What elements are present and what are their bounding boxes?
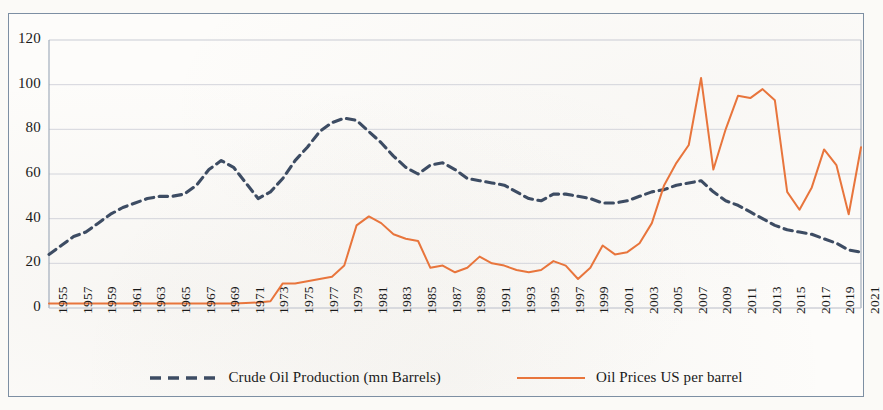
x-axis-tick-label: 1985 <box>424 286 440 314</box>
x-axis-tick-label: 1987 <box>449 286 465 314</box>
x-axis-tick-label: 1977 <box>326 286 342 314</box>
x-axis-tick-label: 1995 <box>547 286 563 314</box>
x-axis-tick-label: 2015 <box>793 286 809 314</box>
y-axis-tick-label: 120 <box>7 30 41 47</box>
x-axis-tick-label: 2007 <box>695 286 711 314</box>
x-axis-tick-label: 2021 <box>867 286 883 314</box>
y-axis-tick-label: 40 <box>7 209 41 226</box>
chart-plot-area <box>9 14 865 398</box>
legend-label: Oil Prices US per barrel <box>596 369 743 386</box>
x-axis-tick-label: 1971 <box>252 286 268 314</box>
y-axis-tick-label: 100 <box>7 75 41 92</box>
x-axis-tick-label: 1991 <box>498 286 514 314</box>
x-axis-tick-label: 1983 <box>399 286 415 314</box>
x-axis-tick-label: 1997 <box>572 286 588 314</box>
x-axis-tick-label: 1975 <box>301 286 317 314</box>
x-axis-tick-label: 1999 <box>596 286 612 314</box>
x-axis-tick-label: 1993 <box>523 286 539 314</box>
x-axis-tick-label: 1955 <box>55 286 71 314</box>
x-axis-tick-label: 2019 <box>842 286 858 314</box>
x-axis-tick-label: 1957 <box>80 286 96 314</box>
series-line-oil-prices-us-per-barrel <box>49 78 861 304</box>
series-line-crude-oil-production-mn-barrels <box>49 118 861 254</box>
y-axis-tick-label: 0 <box>7 298 41 315</box>
solid-line-swatch <box>515 371 587 385</box>
chart-figure: 0204060801001201955195719591961196319651… <box>8 13 864 397</box>
x-axis-tick-label: 2005 <box>670 286 686 314</box>
legend-label: Crude Oil Production (mn Barrels) <box>229 369 441 386</box>
x-axis-tick-label: 1969 <box>227 286 243 314</box>
x-axis-tick-label: 2013 <box>769 286 785 314</box>
x-axis-tick-label: 1959 <box>104 286 120 314</box>
y-axis-tick-label: 80 <box>7 119 41 136</box>
x-axis-tick-label: 1979 <box>350 286 366 314</box>
x-axis-tick-label: 2017 <box>818 286 834 314</box>
x-axis-tick-label: 1963 <box>153 286 169 314</box>
legend-item[interactable]: Crude Oil Production (mn Barrels) <box>148 369 441 386</box>
x-axis-tick-label: 2001 <box>621 286 637 314</box>
chart-legend: Crude Oil Production (mn Barrels)Oil Pri… <box>9 369 881 386</box>
x-axis-tick-label: 1989 <box>473 286 489 314</box>
x-axis-tick-label: 1961 <box>129 286 145 314</box>
legend-item[interactable]: Oil Prices US per barrel <box>515 369 743 386</box>
dashed-line-swatch <box>148 371 220 385</box>
x-axis-tick-label: 1981 <box>375 286 391 314</box>
x-axis-tick-label: 2003 <box>646 286 662 314</box>
y-axis-tick-label: 20 <box>7 253 41 270</box>
x-axis-tick-label: 1973 <box>276 286 292 314</box>
x-axis-tick-label: 2009 <box>719 286 735 314</box>
y-axis-tick-label: 60 <box>7 164 41 181</box>
x-axis-tick-label: 2011 <box>744 287 760 314</box>
x-axis-tick-label: 1967 <box>203 286 219 314</box>
x-axis-tick-label: 1965 <box>178 286 194 314</box>
